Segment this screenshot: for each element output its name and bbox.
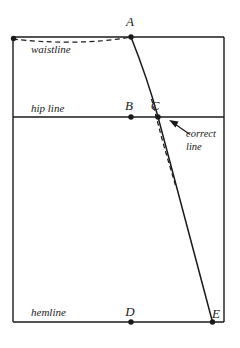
- point-d-label: D: [124, 304, 135, 319]
- correct-line-note-second: line: [186, 141, 202, 152]
- dashed-waistline-curve: [13, 37, 131, 42]
- point-b-dot: [128, 114, 133, 119]
- frame-group: [13, 37, 224, 322]
- point-d-dot: [128, 319, 133, 324]
- waistline-label: waistline: [31, 43, 71, 55]
- point-a-label: A: [125, 14, 134, 29]
- hemline-label: hemline: [31, 306, 66, 318]
- point-a-dot: [128, 34, 133, 39]
- point-c-dot: [155, 114, 160, 119]
- pattern-diagram: A B C D E waistline hip line hemline cor…: [0, 0, 240, 348]
- point-e-label: E: [211, 306, 220, 321]
- hip-line-label: hip line: [31, 102, 64, 114]
- point-waist-left-dot: [11, 36, 16, 41]
- point-c-label: C: [151, 98, 160, 113]
- point-b-label: B: [125, 98, 133, 113]
- pattern-drawing-canvas: A B C D E waistline hip line hemline cor…: [0, 0, 240, 348]
- callout-arrow-head: [169, 120, 179, 128]
- correct-line-note-first: correct: [186, 128, 217, 139]
